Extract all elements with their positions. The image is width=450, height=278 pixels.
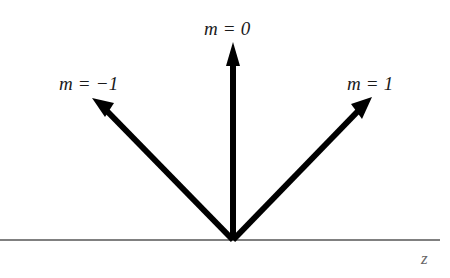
arrow-m-positive-1-shaft <box>233 108 361 240</box>
arrow-m-negative-1-shaft <box>103 107 233 240</box>
label-m-positive-1: m = 1 <box>347 74 394 93</box>
arrow-m-negative-1 <box>92 98 233 240</box>
arrow-m-zero-head <box>226 42 240 66</box>
diffraction-order-diagram: m = 0 m = −1 m = 1 z <box>0 0 450 278</box>
z-axis-label: z <box>421 250 428 267</box>
label-m-negative-1: m = −1 <box>59 74 119 93</box>
diagram-canvas <box>0 0 450 278</box>
label-m-zero: m = 0 <box>204 19 251 38</box>
arrow-m-zero <box>226 42 240 240</box>
arrow-m-positive-1 <box>233 97 372 240</box>
